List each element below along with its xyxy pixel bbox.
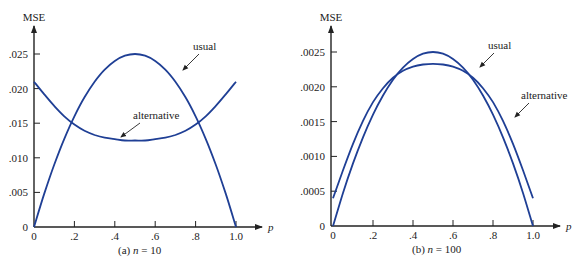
annotation-alternative-arrow xyxy=(121,123,140,137)
y-tick-label: .020 xyxy=(9,83,29,95)
y-tick-label: .0025 xyxy=(300,46,325,58)
x-tick-label: .2 xyxy=(369,229,377,241)
annotation-usual-arrow xyxy=(183,54,199,70)
annotation-usual-arrow xyxy=(480,53,494,67)
x-tick-label: 0 xyxy=(330,229,336,241)
caption-b: (b) n = 100 xyxy=(412,243,462,256)
y-axis-title: MSE xyxy=(320,11,343,23)
x-tick-label: .8 xyxy=(489,229,498,241)
annotation-usual: usual xyxy=(488,39,511,51)
x-tick-label: .4 xyxy=(409,229,418,241)
x-tick-label: 1.0 xyxy=(229,230,243,242)
x-tick-label: .6 xyxy=(151,230,160,242)
caption-a: (a) n = 10 xyxy=(118,244,162,257)
y-tick-label: .0010 xyxy=(300,150,325,162)
annotation-alternative: alternative xyxy=(133,109,180,121)
x-ticks: 0.2.4.6.81.0 xyxy=(330,220,540,241)
y-tick-label: 0 xyxy=(23,221,29,233)
series-alternative-line xyxy=(333,64,533,198)
y-tick-label: .010 xyxy=(9,152,29,164)
y-ticks: 0.005.010.015.020.025 xyxy=(9,48,40,233)
y-tick-label: 0 xyxy=(320,220,326,232)
x-axis-title: p xyxy=(565,220,572,232)
x-ticks: 0.2.4.6.81.0 xyxy=(31,221,243,242)
x-axis-title: p xyxy=(267,221,274,233)
y-tick-label: .015 xyxy=(9,117,29,129)
x-tick-label: 0 xyxy=(31,230,37,242)
y-tick-label: .025 xyxy=(9,48,29,60)
annotation-alternative: alternative xyxy=(521,89,568,101)
x-tick-label: .2 xyxy=(70,230,78,242)
y-tick-label: .005 xyxy=(9,186,29,198)
figure: MSE p 0.005.010.015.020.025 0.2.4.6.81.0… xyxy=(0,0,584,269)
y-tick-label: .0020 xyxy=(300,81,325,93)
annotation-usual: usual xyxy=(193,40,216,52)
y-tick-label: .0015 xyxy=(300,116,325,128)
x-tick-label: .6 xyxy=(449,229,458,241)
annotation-alternative-arrow xyxy=(515,103,529,117)
y-axis-title: MSE xyxy=(23,11,46,23)
x-tick-label: .8 xyxy=(191,230,200,242)
x-tick-label: 1.0 xyxy=(526,229,540,241)
y-tick-label: .0005 xyxy=(300,185,325,197)
chart-panel-b: MSE p 0.0005.0010.0015.0020.0025 0.2.4.6… xyxy=(300,11,572,256)
chart-panel-a: MSE p 0.005.010.015.020.025 0.2.4.6.81.0… xyxy=(9,11,274,257)
series-usual-line xyxy=(333,52,533,226)
x-tick-label: .4 xyxy=(111,230,120,242)
